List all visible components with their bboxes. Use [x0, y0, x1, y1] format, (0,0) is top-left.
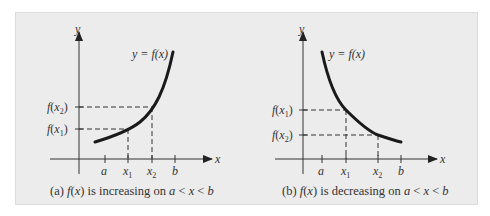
level-f-x2: f(x2): [272, 128, 293, 144]
dashed-guides: [303, 110, 378, 159]
level-f-x1: f(x1): [272, 103, 293, 119]
curve-label: y = f(x): [131, 47, 168, 61]
x-axis-label: x: [214, 152, 221, 166]
decreasing-curve: [322, 52, 401, 142]
caption-a: (a) f(x) is increasing on a < x < b: [50, 184, 214, 198]
tick-b: b: [172, 164, 178, 178]
tick-x2: x2: [372, 164, 382, 180]
tick-x1: x1: [122, 164, 132, 180]
level-f-x2: f(x2): [47, 100, 68, 116]
curve-label: y = f(x): [328, 47, 365, 61]
dashed-guides: [79, 107, 152, 159]
monotonic-function-diagram: y x a x1 x2 b f(x2) f(x1) y = f(x): [0, 0, 490, 216]
panel-b-decreasing: y x a x1 x2 b f(x1) f(x2) y = f(x) (b) f…: [272, 22, 449, 198]
tick-a: a: [101, 164, 107, 178]
x-axis-label: x: [439, 152, 446, 166]
tick-a: a: [318, 164, 324, 178]
tick-x1: x1: [340, 164, 350, 180]
level-f-x1: f(x1): [47, 122, 68, 138]
y-axis-label: y: [74, 22, 81, 36]
tick-x2: x2: [146, 164, 156, 180]
caption-b: (b) f(x) is decreasing on a < x < b: [282, 184, 449, 198]
panel-a-increasing: y x a x1 x2 b f(x2) f(x1) y = f(x): [47, 22, 221, 198]
y-axis-label: y: [298, 22, 305, 36]
tick-b: b: [398, 164, 404, 178]
